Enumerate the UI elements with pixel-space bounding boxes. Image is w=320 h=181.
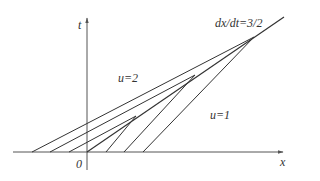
characteristic-line-u1 bbox=[143, 37, 254, 152]
shock-speed-label: dx/dt=3/2 bbox=[215, 17, 262, 29]
characteristic-line-u1 bbox=[124, 75, 195, 152]
characteristic-line-u2 bbox=[50, 75, 195, 152]
right-state-label: u=1 bbox=[210, 109, 230, 121]
left-state-label: u=2 bbox=[118, 72, 138, 84]
x-axis-label: x bbox=[280, 156, 285, 168]
characteristic-line-u2 bbox=[32, 37, 254, 152]
characteristics-right-u1 bbox=[106, 37, 254, 152]
shock-line bbox=[87, 17, 284, 152]
origin-label: 0 bbox=[76, 158, 82, 170]
characteristics-left-u2 bbox=[32, 37, 254, 152]
t-axis-label: t bbox=[78, 19, 81, 31]
characteristic-line-u2 bbox=[69, 116, 136, 152]
